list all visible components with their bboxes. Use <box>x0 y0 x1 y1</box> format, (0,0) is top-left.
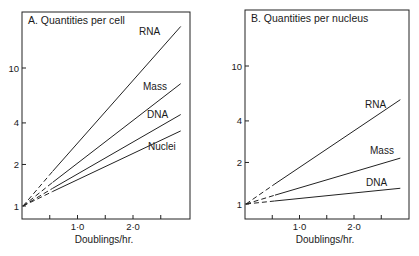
series-dna-extrapolated <box>23 188 53 206</box>
series-label-mass: Mass <box>370 145 394 156</box>
series-rna-extrapolated <box>23 171 53 206</box>
y-tick-label: 10 <box>231 61 242 72</box>
panel-a: A. Quantities per cell124101·02·0Doublin… <box>8 12 190 245</box>
series-nuclei-line <box>53 131 181 192</box>
figure: A. Quantities per cell124101·02·0Doublin… <box>0 0 419 256</box>
series-label-dna: DNA <box>147 109 168 120</box>
y-tick-label: 2 <box>14 159 19 170</box>
y-tick-label: 10 <box>8 63 19 74</box>
x-tick-label: 2·0 <box>126 221 140 232</box>
series-label-nuclei: Nuclei <box>148 141 176 152</box>
panel-title: A. Quantities per cell <box>28 14 125 26</box>
series-rna-line <box>275 100 400 184</box>
series-label-rna: RNA <box>139 26 160 37</box>
panel-b: B. Quantities per nucleus124101·02·0Doub… <box>231 10 409 245</box>
series-label-rna: RNA <box>365 99 386 110</box>
y-tick-label: 2 <box>237 157 242 168</box>
y-tick-label: 1 <box>237 199 242 210</box>
series-label-mass: Mass <box>143 81 167 92</box>
series-dna-line <box>275 188 400 201</box>
x-tick-label: 2·0 <box>347 221 361 232</box>
x-axis-label: Doublings/hr. <box>75 234 133 245</box>
x-tick-label: 1·0 <box>293 221 307 232</box>
series-mass-extrapolated <box>246 195 275 204</box>
x-tick-label: 1·0 <box>71 221 85 232</box>
series-label-dna: DNA <box>366 177 387 188</box>
y-tick-label: 4 <box>14 117 19 128</box>
y-tick-label: 1 <box>14 201 19 212</box>
panel-title: B. Quantities per nucleus <box>251 12 368 24</box>
y-tick-label: 4 <box>237 115 242 126</box>
x-axis-label: Doublings/hr. <box>296 234 354 245</box>
